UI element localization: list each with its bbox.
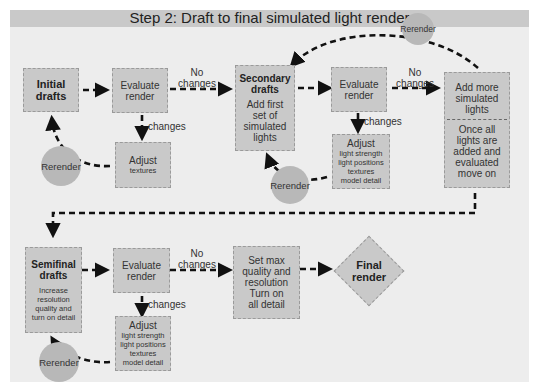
setmax-line-1: Set max xyxy=(248,255,285,266)
no-label: No xyxy=(176,67,218,78)
adjust-detail-4: model detail xyxy=(123,358,163,367)
secondary-label: Secondary xyxy=(239,73,290,84)
adjust-title: Adjust xyxy=(347,138,375,149)
setmax-line-3: resolution xyxy=(245,277,288,288)
adjust-title: Adjust xyxy=(129,155,157,166)
adjust-lights-box-3: Adjust light strength light positions te… xyxy=(115,316,171,371)
secondary-detail-4: lights xyxy=(253,132,276,143)
evaluate-label-2: render xyxy=(127,271,156,282)
changes-label: changes xyxy=(176,78,218,89)
changes-label: changes xyxy=(176,259,218,270)
evaluate-label: Evaluate xyxy=(122,260,161,271)
semifinal-label-2: drafts xyxy=(40,270,68,281)
adjust-textures-box: Adjust textures xyxy=(115,142,171,188)
initial-drafts-label: Initial xyxy=(37,78,66,90)
semifinal-drafts-box: Semifinal drafts Increase resolution qua… xyxy=(25,247,82,333)
adjust-detail-3: textures xyxy=(348,167,375,176)
evaluate-render-box-1: Evaluate render xyxy=(112,68,168,113)
more-line-7: evaluated xyxy=(455,157,498,168)
secondary-detail-3: simulated xyxy=(244,121,287,132)
changes-label-3: changes xyxy=(148,299,186,310)
no-label: No xyxy=(176,248,218,259)
semifinal-detail-3: quality and xyxy=(35,304,71,313)
adjust-title: Adjust xyxy=(129,320,157,331)
rerender-circle-2: Rerender xyxy=(271,166,309,204)
adjust-detail-2: light positions xyxy=(338,158,383,167)
rerender-circle-top: Rerender xyxy=(402,13,434,45)
no-changes-label-2: No changes xyxy=(394,67,436,89)
secondary-drafts-box: Secondary drafts Add first set of simula… xyxy=(235,65,295,151)
adjust-detail-4: model detail xyxy=(341,176,381,185)
more-line-8: move on xyxy=(458,168,496,179)
semifinal-detail-1: Increase xyxy=(39,286,68,295)
initial-drafts-box: Initial drafts xyxy=(23,68,79,112)
adjust-lights-box-2: Adjust light strength light positions te… xyxy=(332,134,390,189)
secondary-detail-1: Add first xyxy=(247,99,284,110)
final-label: Final xyxy=(339,259,399,271)
more-line-3: lights xyxy=(465,104,488,115)
rerender-circle-3: Rerender xyxy=(39,342,79,382)
changes-label: changes xyxy=(394,78,436,89)
secondary-detail-2: set of xyxy=(253,110,277,121)
semifinal-detail-2: resolution xyxy=(37,295,70,304)
adjust-detail-1: light strength xyxy=(340,149,383,158)
adjust-detail-2: light positions xyxy=(120,340,165,349)
changes-label-2: changes xyxy=(364,116,402,127)
no-changes-label-1: No changes xyxy=(176,67,218,89)
render-label: render xyxy=(339,271,399,283)
more-line-2: simulated xyxy=(456,93,499,104)
adjust-detail-3: textures xyxy=(130,349,157,358)
evaluate-render-box-2: Evaluate render xyxy=(331,67,387,112)
setmax-line-2: quality and xyxy=(242,266,290,277)
evaluate-label: Evaluate xyxy=(340,79,379,90)
semifinal-detail-4: turn on detail xyxy=(32,313,75,322)
more-line-1: Add more xyxy=(455,82,498,93)
final-render-label: Final render xyxy=(339,259,399,283)
more-line-5: lights are xyxy=(457,135,498,146)
setmax-line-4: Turn on xyxy=(249,288,283,299)
semifinal-label: Semifinal xyxy=(31,259,75,270)
no-label: No xyxy=(394,67,436,78)
rerender-circle-1: Rerender xyxy=(41,146,81,186)
add-more-lights-box: Add more simulated lights Once all light… xyxy=(444,72,510,188)
evaluate-label-2: render xyxy=(126,91,155,102)
evaluate-label-2: render xyxy=(345,90,374,101)
divider xyxy=(447,119,507,120)
evaluate-label: Evaluate xyxy=(121,80,160,91)
more-line-4: Once all xyxy=(459,124,496,135)
initial-drafts-label-2: drafts xyxy=(36,90,67,102)
no-changes-label-3: No changes xyxy=(176,248,218,270)
adjust-detail-1: light strength xyxy=(122,331,165,340)
adjust-detail: textures xyxy=(130,166,157,175)
setmax-line-5: all detail xyxy=(248,299,285,310)
more-line-6: added and xyxy=(453,146,500,157)
changes-label-1: changes xyxy=(148,121,186,132)
set-max-quality-box: Set max quality and resolution Turn on a… xyxy=(233,246,300,319)
secondary-label-2: drafts xyxy=(251,84,279,95)
evaluate-render-box-3: Evaluate render xyxy=(113,248,170,293)
